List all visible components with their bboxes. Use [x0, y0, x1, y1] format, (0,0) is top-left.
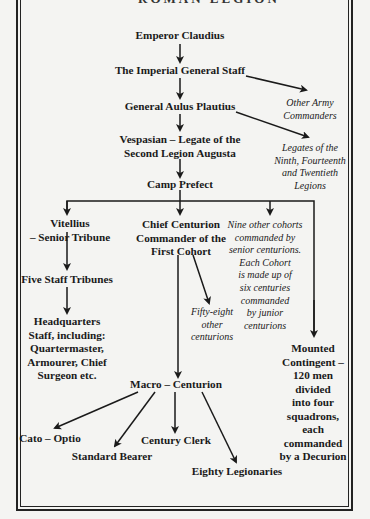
node-chief-centurion: Chief CenturionCommander of theFirst Coh…: [136, 218, 226, 259]
node-eighty-legionaries: Eighty Legionaries: [192, 465, 282, 479]
node-five-staff-tribunes: Five Staff Tribunes: [21, 273, 113, 287]
node-general-aulus-plautius: General Aulus Plautius: [125, 100, 236, 114]
node-headquarters-staff: HeadquartersStaff, including:Quartermast…: [27, 315, 107, 383]
node-emperor-claudius: Emperor Claudius: [136, 29, 225, 43]
node-other-army-commanders: Other ArmyCommanders: [283, 97, 336, 122]
node-century-clerk: Century Clerk: [141, 434, 211, 448]
node-macro-centurion: Macro – Centurion: [130, 378, 222, 392]
node-mounted-contingent: MountedContingent –120 mendividedinto fo…: [279, 342, 346, 464]
node-fifty-eight-centurions: Fifty-eightothercenturions: [191, 306, 233, 344]
node-nine-other-cohorts: Nine other cohortscommanded bysenior cen…: [228, 219, 303, 332]
node-cato-optio: Cato – Optio: [19, 432, 81, 446]
node-vitellius: Vitellius– Senior Tribune: [30, 217, 110, 244]
node-camp-prefect: Camp Prefect: [147, 178, 213, 192]
node-other-legates: Legates of theNinth, Fourteenthand Twent…: [274, 142, 346, 192]
node-standard-bearer: Standard Bearer: [72, 450, 152, 464]
node-imperial-general-staff: The Imperial General Staff: [115, 64, 245, 78]
node-vespasian: Vespasian – Legate of theSecond Legion A…: [120, 133, 241, 160]
